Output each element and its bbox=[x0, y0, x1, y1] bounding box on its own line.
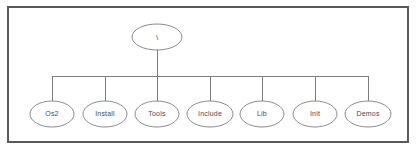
node-lib: Lib bbox=[240, 101, 284, 127]
node-label-os2: Os2 bbox=[45, 110, 58, 117]
node-label-include: Include bbox=[198, 110, 222, 117]
node-label-demos: Demos bbox=[356, 110, 379, 117]
node-label-install: Install bbox=[95, 110, 115, 117]
node-label-tools: Tools bbox=[148, 110, 166, 117]
tree-diagram-canvas: \Os2InstallToolsIncludeLibInitDemos bbox=[0, 0, 418, 150]
node-os2: Os2 bbox=[30, 101, 74, 127]
node-label-init: Init bbox=[310, 110, 320, 117]
node-install: Install bbox=[83, 101, 127, 127]
node-init: Init bbox=[293, 101, 337, 127]
node-label-lib: Lib bbox=[257, 110, 267, 117]
node-tools: Tools bbox=[135, 101, 179, 127]
node-include: Include bbox=[187, 101, 233, 127]
directory-tree-diagram: \Os2InstallToolsIncludeLibInitDemos bbox=[0, 0, 418, 150]
node-demos: Demos bbox=[345, 101, 391, 127]
node-root: \ bbox=[132, 24, 182, 50]
